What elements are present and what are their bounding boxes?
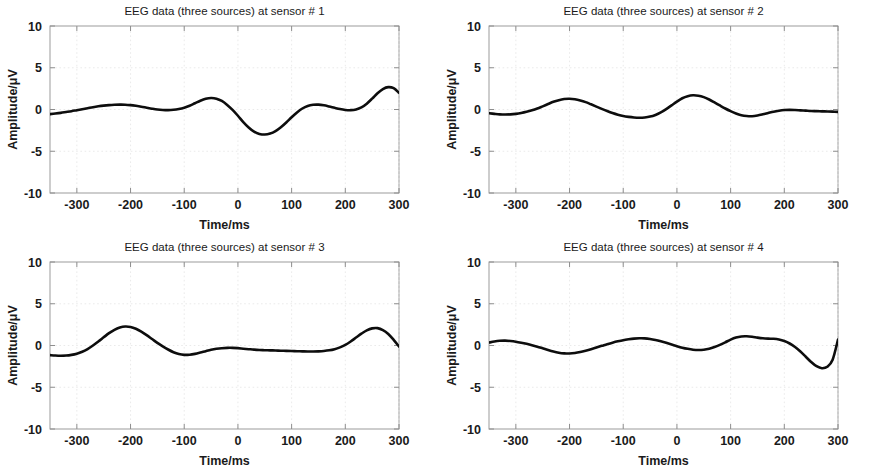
x-tick-label: -300 xyxy=(503,434,528,448)
x-tick-label: 300 xyxy=(389,434,410,448)
y-tick-label: 10 xyxy=(467,20,481,34)
y-tick-label: 5 xyxy=(35,61,42,75)
plot-sensor-4: EEG data (three sources) at sensor # 4-3… xyxy=(439,236,877,472)
x-tick-label: 100 xyxy=(720,434,741,448)
y-tick-label: 0 xyxy=(35,339,42,353)
x-tick-label: -100 xyxy=(611,198,636,212)
plot-sensor-2: EEG data (three sources) at sensor # 2-3… xyxy=(439,0,877,236)
eeg-figure: EEG data (three sources) at sensor # 1-3… xyxy=(0,0,877,472)
x-tick-label: -200 xyxy=(118,434,143,448)
x-tick-label: -300 xyxy=(64,198,89,212)
panel-sensor-4: EEG data (three sources) at sensor # 4-3… xyxy=(439,236,877,472)
x-tick-label: -200 xyxy=(557,434,582,448)
x-tick-label: 0 xyxy=(234,434,241,448)
panel-sensor-1: EEG data (three sources) at sensor # 1-3… xyxy=(0,0,438,236)
x-tick-label: 200 xyxy=(335,434,356,448)
plot-sensor-3: EEG data (three sources) at sensor # 3-3… xyxy=(0,236,438,472)
y-tick-label: 10 xyxy=(28,20,42,34)
y-tick-label: -10 xyxy=(24,423,42,437)
y-tick-label: 5 xyxy=(474,297,481,311)
x-tick-label: -300 xyxy=(64,434,89,448)
x-axis-label: Time/ms xyxy=(638,454,689,468)
y-tick-label: 0 xyxy=(474,103,481,117)
y-tick-label: 10 xyxy=(28,256,42,270)
x-tick-label: -100 xyxy=(611,434,636,448)
x-axis-label: Time/ms xyxy=(199,218,250,232)
x-tick-label: 100 xyxy=(281,434,302,448)
y-axis-label: Amplitude/μV xyxy=(445,69,459,150)
y-tick-label: 0 xyxy=(35,103,42,117)
x-tick-label: -300 xyxy=(503,198,528,212)
plot-title: EEG data (three sources) at sensor # 3 xyxy=(124,241,324,253)
y-tick-label: -5 xyxy=(31,145,42,159)
y-tick-label: -5 xyxy=(470,381,481,395)
x-tick-label: 300 xyxy=(828,434,849,448)
x-tick-label: 0 xyxy=(234,198,241,212)
y-tick-label: -10 xyxy=(463,187,481,201)
y-tick-label: -5 xyxy=(31,381,42,395)
y-axis-label: Amplitude/μV xyxy=(445,305,459,386)
y-axis-label: Amplitude/μV xyxy=(6,305,20,386)
plot-title: EEG data (three sources) at sensor # 1 xyxy=(124,5,324,17)
x-tick-label: -200 xyxy=(118,198,143,212)
x-tick-label: -200 xyxy=(557,198,582,212)
plot-title: EEG data (three sources) at sensor # 4 xyxy=(563,241,764,253)
y-tick-label: 5 xyxy=(474,61,481,75)
y-tick-label: 0 xyxy=(474,339,481,353)
x-tick-label: -100 xyxy=(172,198,197,212)
x-tick-label: 300 xyxy=(389,198,410,212)
plot-sensor-1: EEG data (three sources) at sensor # 1-3… xyxy=(0,0,438,236)
y-tick-label: -10 xyxy=(24,187,42,201)
x-tick-label: 100 xyxy=(281,198,302,212)
x-axis-label: Time/ms xyxy=(638,218,689,232)
x-tick-label: 300 xyxy=(828,198,849,212)
x-axis-label: Time/ms xyxy=(199,454,250,468)
panel-sensor-2: EEG data (three sources) at sensor # 2-3… xyxy=(439,0,877,236)
y-tick-label: -5 xyxy=(470,145,481,159)
x-tick-label: 100 xyxy=(720,198,741,212)
x-tick-label: 0 xyxy=(673,198,680,212)
y-tick-label: 10 xyxy=(467,256,481,270)
x-tick-label: 200 xyxy=(335,198,356,212)
x-tick-label: -100 xyxy=(172,434,197,448)
plot-title: EEG data (three sources) at sensor # 2 xyxy=(563,5,763,17)
x-tick-label: 200 xyxy=(774,434,795,448)
x-tick-label: 0 xyxy=(673,434,680,448)
y-axis-label: Amplitude/μV xyxy=(6,69,20,150)
panel-sensor-3: EEG data (three sources) at sensor # 3-3… xyxy=(0,236,438,472)
y-tick-label: -10 xyxy=(463,423,481,437)
y-tick-label: 5 xyxy=(35,297,42,311)
x-tick-label: 200 xyxy=(774,198,795,212)
